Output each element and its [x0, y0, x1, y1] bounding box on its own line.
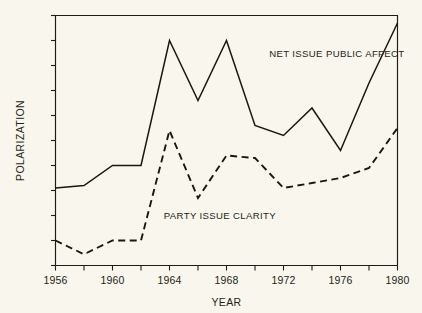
x-axis-ticks — [56, 266, 398, 271]
x-tick-label: 1968 — [214, 274, 238, 286]
x-tick-label: 1976 — [328, 274, 352, 286]
x-tick-label: 1972 — [271, 274, 295, 286]
x-tick-label: 1956 — [43, 274, 67, 286]
x-tick-label: 1980 — [385, 274, 409, 286]
y-axis-title: POLARIZATION — [14, 100, 26, 181]
annotation-net-issue-public-affect: NET ISSUE PUBLIC AFFECT — [269, 48, 404, 59]
polarization-line-chart: 1956196019641968197219761980 NET ISSUE P… — [0, 0, 422, 313]
series-party-issue-clarity — [56, 128, 398, 254]
chart-figure: 1956196019641968197219761980 NET ISSUE P… — [0, 0, 422, 313]
annotation-party-issue-clarity: PARTY ISSUE CLARITY — [164, 210, 276, 221]
x-tick-label: 1964 — [157, 274, 181, 286]
x-tick-label: 1960 — [100, 274, 124, 286]
y-axis-ticks — [51, 16, 56, 266]
x-axis-title: YEAR — [211, 296, 241, 308]
x-axis-tick-labels: 1956196019641968197219761980 — [43, 274, 409, 286]
